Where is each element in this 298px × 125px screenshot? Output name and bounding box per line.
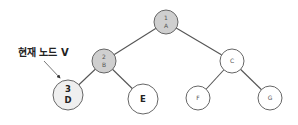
node-c: C xyxy=(220,49,244,73)
node-label: C xyxy=(230,57,234,64)
node-order: 3 xyxy=(65,84,71,94)
node-d: 3D xyxy=(53,80,83,110)
node-f: F xyxy=(186,86,210,110)
current-node-annotation: 현재 노드 V xyxy=(18,46,69,78)
node-label: E xyxy=(140,94,146,104)
node-label: D xyxy=(64,95,71,105)
node-e: E xyxy=(128,84,158,114)
node-label: F xyxy=(196,94,200,101)
tree-diagram: 1A2BC3DEFG 현재 노드 V xyxy=(0,0,298,125)
nodes: 1A2BC3DEFG xyxy=(53,10,282,114)
node-label: B xyxy=(102,61,106,68)
node-a: 1A xyxy=(154,10,178,34)
node-g: G xyxy=(258,86,282,110)
node-order: 1 xyxy=(164,14,168,21)
node-label: G xyxy=(268,94,273,101)
node-b: 2B xyxy=(92,49,116,73)
node-order: 2 xyxy=(102,53,106,60)
annotation-label: 현재 노드 V xyxy=(18,46,69,58)
annotation-arrow xyxy=(44,61,60,78)
